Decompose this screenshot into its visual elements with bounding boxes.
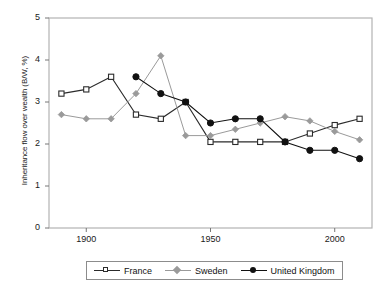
legend-symbol [103, 267, 108, 272]
series-line [136, 77, 360, 159]
y-tick-label: 3 [18, 96, 40, 106]
data-point-marker [158, 53, 164, 59]
data-point-marker [257, 116, 263, 122]
series-line [61, 56, 359, 140]
y-tick-label: 2 [18, 138, 40, 148]
data-point-marker [332, 123, 337, 128]
data-point-marker [232, 126, 238, 132]
data-point-marker [83, 116, 89, 122]
data-point-marker [208, 139, 213, 144]
x-tick-label: 1900 [66, 234, 106, 244]
data-point-marker [207, 120, 213, 126]
data-point-marker [307, 118, 313, 124]
data-point-marker [133, 112, 138, 117]
data-point-marker [356, 137, 362, 143]
series-sweden [58, 53, 363, 143]
data-point-marker [58, 111, 64, 117]
legend-symbol [173, 266, 181, 274]
x-tick-label: 2000 [315, 234, 355, 244]
data-point-marker [109, 74, 114, 79]
legend-label: France [124, 266, 152, 276]
data-point-marker [84, 87, 89, 92]
legend-marker-icon [94, 265, 120, 276]
data-point-marker [282, 114, 288, 120]
y-tick-label: 0 [18, 222, 40, 232]
legend-marker-icon [241, 265, 267, 276]
series-united-kingdom [133, 74, 363, 162]
data-point-marker [357, 116, 362, 121]
legend-item[interactable]: Sweden [165, 265, 228, 276]
legend-item[interactable]: United Kingdom [241, 265, 335, 276]
data-point-marker [183, 99, 189, 105]
data-point-marker [158, 116, 163, 121]
data-point-marker [307, 131, 312, 136]
data-point-marker [133, 74, 139, 80]
y-tick-label: 1 [18, 180, 40, 190]
legend-marker-icon [165, 265, 191, 276]
plot-canvas [0, 0, 383, 289]
data-point-marker [332, 128, 338, 134]
data-point-marker [332, 147, 338, 153]
data-point-marker [232, 116, 238, 122]
data-point-marker [158, 91, 164, 97]
data-point-marker [307, 147, 313, 153]
data-point-marker [182, 132, 188, 138]
data-point-marker [59, 91, 64, 96]
data-point-marker [282, 139, 288, 145]
legend-label: Sweden [195, 266, 228, 276]
data-point-marker [233, 139, 238, 144]
inheritance-flow-chart: Inheritance flow over wealth (B/W, %) 01… [0, 0, 383, 289]
legend-item[interactable]: France [94, 265, 152, 276]
data-point-marker [258, 139, 263, 144]
legend-label: United Kingdom [271, 266, 335, 276]
y-tick-label: 4 [18, 54, 40, 64]
legend-symbol [250, 267, 256, 273]
x-tick-label: 1950 [191, 234, 231, 244]
data-point-marker [356, 156, 362, 162]
y-tick-label: 5 [18, 12, 40, 22]
chart-legend: FranceSwedenUnited Kingdom [86, 261, 343, 280]
